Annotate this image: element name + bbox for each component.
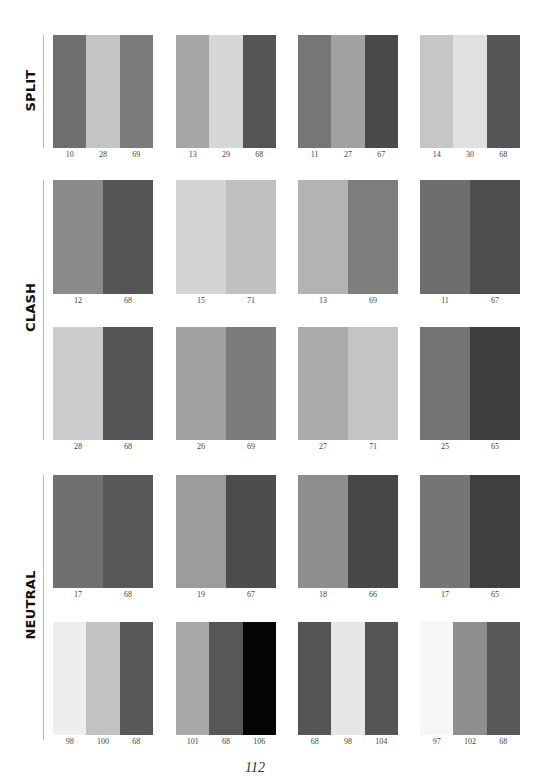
swatch-code: 69 <box>348 296 398 305</box>
color-stripe <box>176 622 209 735</box>
color-stripe <box>53 327 103 440</box>
color-swatch <box>420 35 520 148</box>
color-stripe <box>120 622 153 735</box>
swatch-code: 68 <box>103 296 153 305</box>
color-stripe <box>298 327 348 440</box>
color-stripe <box>470 180 520 294</box>
swatch-code: 14 <box>420 150 453 159</box>
color-stripe <box>209 35 242 148</box>
swatch-code: 67 <box>365 150 398 159</box>
color-swatch <box>298 475 398 588</box>
color-swatch <box>176 622 276 735</box>
color-stripe <box>86 35 119 148</box>
swatch-code: 19 <box>176 590 226 599</box>
section-label-neutral: NEUTRAL <box>23 572 38 640</box>
swatch-code: 106 <box>243 737 276 746</box>
swatch-code: 98 <box>53 737 86 746</box>
color-stripe <box>331 35 364 148</box>
color-swatch <box>176 475 276 588</box>
swatch-codes: 2868 <box>53 442 153 451</box>
color-swatch <box>420 475 520 588</box>
swatch-code: 17 <box>53 590 103 599</box>
swatch-codes: 1768 <box>53 590 153 599</box>
swatch-codes: 9710268 <box>420 737 520 746</box>
swatch-code: 101 <box>176 737 209 746</box>
swatch-code: 15 <box>176 296 226 305</box>
color-stripe <box>86 622 119 735</box>
swatch-code: 68 <box>103 590 153 599</box>
swatch-codes: 2669 <box>176 442 276 451</box>
swatch-code: 25 <box>420 442 470 451</box>
color-stripe <box>226 180 276 294</box>
swatch-code: 68 <box>487 150 520 159</box>
swatch-code: 100 <box>86 737 119 746</box>
swatch-codes: 112767 <box>298 150 398 159</box>
color-swatch <box>420 180 520 294</box>
color-stripe <box>53 622 86 735</box>
color-stripe <box>420 622 453 735</box>
swatch-code: 30 <box>453 150 486 159</box>
color-stripe <box>226 327 276 440</box>
color-swatch <box>53 327 153 440</box>
color-stripe <box>348 327 398 440</box>
swatch-code: 68 <box>103 442 153 451</box>
color-stripe <box>487 622 520 735</box>
swatch-codes: 6898104 <box>298 737 398 746</box>
swatch-codes: 1967 <box>176 590 276 599</box>
swatch-code: 67 <box>226 590 276 599</box>
section-label-split: SPLIT <box>23 72 38 112</box>
swatch-code: 28 <box>53 442 103 451</box>
swatch-code: 67 <box>470 296 520 305</box>
swatch-codes: 132968 <box>176 150 276 159</box>
color-swatch <box>53 622 153 735</box>
swatch-code: 11 <box>420 296 470 305</box>
color-stripe <box>348 475 398 588</box>
color-stripe <box>243 35 276 148</box>
color-stripe <box>103 475 153 588</box>
swatch-code: 68 <box>243 150 276 159</box>
color-swatch <box>176 180 276 294</box>
swatch-code: 26 <box>176 442 226 451</box>
color-stripe <box>420 327 470 440</box>
color-stripe <box>176 180 226 294</box>
swatch-code: 69 <box>120 150 153 159</box>
swatch-code: 13 <box>176 150 209 159</box>
color-stripe <box>298 475 348 588</box>
page-number: 112 <box>245 760 265 776</box>
swatch-code: 28 <box>86 150 119 159</box>
swatch-code: 13 <box>298 296 348 305</box>
swatch-code: 97 <box>420 737 453 746</box>
color-stripe <box>103 180 153 294</box>
section-bracket-neutral <box>43 475 44 740</box>
color-stripe <box>53 180 103 294</box>
color-swatch <box>420 327 520 440</box>
swatch-code: 104 <box>365 737 398 746</box>
swatch-code: 68 <box>487 737 520 746</box>
color-stripe <box>176 475 226 588</box>
color-swatch <box>176 327 276 440</box>
swatch-codes: 1369 <box>298 296 398 305</box>
color-stripe <box>420 180 470 294</box>
color-swatch <box>298 180 398 294</box>
swatch-code: 68 <box>298 737 331 746</box>
swatch-code: 27 <box>331 150 364 159</box>
section-bracket-split <box>43 35 44 148</box>
swatch-codes: 1866 <box>298 590 398 599</box>
swatch-code: 69 <box>226 442 276 451</box>
color-stripe <box>365 622 398 735</box>
swatch-codes: 1571 <box>176 296 276 305</box>
color-stripe <box>298 622 331 735</box>
swatch-code: 65 <box>470 590 520 599</box>
color-stripe <box>209 622 242 735</box>
color-stripe <box>176 35 209 148</box>
swatch-codes: 1167 <box>420 296 520 305</box>
swatch-code: 12 <box>53 296 103 305</box>
swatch-codes: 143068 <box>420 150 520 159</box>
swatch-codes: 1268 <box>53 296 153 305</box>
color-stripe <box>365 35 398 148</box>
color-swatch <box>53 35 153 148</box>
swatch-code: 11 <box>298 150 331 159</box>
color-stripe <box>453 35 486 148</box>
swatch-codes: 2771 <box>298 442 398 451</box>
swatch-codes: 9810068 <box>53 737 153 746</box>
